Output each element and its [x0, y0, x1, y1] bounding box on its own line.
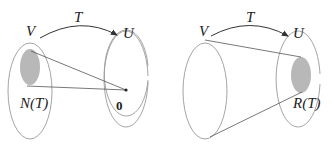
kernel-shaded-region [20, 49, 40, 85]
kernel-to-zero-line-bottom [27, 86, 126, 90]
range-label: R(T) [292, 95, 321, 112]
domain-v-label: V [26, 23, 37, 39]
range-shaded-region [291, 57, 311, 93]
map-t-label: T [246, 9, 256, 25]
domain-v-label: V [199, 23, 210, 39]
codomain-u-label: U [293, 25, 305, 41]
zero-point [124, 88, 127, 91]
map-t-label: T [74, 9, 84, 25]
zero-label: 0 [116, 98, 123, 113]
codomain-u-label: U [123, 25, 135, 41]
diagram-svg: V U T N(T) 0 V U T R(T) [0, 0, 334, 156]
map-t-arrow [40, 26, 117, 38]
range-diagram: V U T R(T) [183, 9, 321, 139]
codomain-u-ellipse [104, 30, 148, 116]
map-t-arrow [211, 26, 288, 37]
kernel-to-zero-line-top [31, 51, 126, 90]
kernel-diagram: V U T N(T) 0 [8, 9, 148, 139]
linear-map-diagram: V U T N(T) 0 V U T R(T) [0, 0, 334, 156]
kernel-label: N(T) [19, 95, 48, 112]
domain-v-ellipse [183, 43, 227, 139]
